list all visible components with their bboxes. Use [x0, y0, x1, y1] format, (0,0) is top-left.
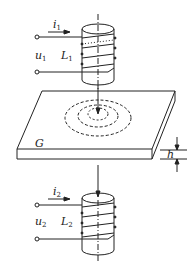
label-u2: u2: [35, 215, 47, 229]
top-terminal-upper: [35, 35, 39, 39]
bottom-coil: [35, 165, 116, 262]
label-L2: L2: [60, 215, 73, 229]
label-L1: L1: [60, 49, 73, 63]
label-h: h: [167, 148, 174, 161]
top-coil: [35, 14, 116, 90]
eddy-current-diagram: i1 u1 L1 G h i2 u2 L2: [0, 0, 195, 274]
bottom-terminal-upper: [35, 203, 39, 207]
label-i1: i1: [53, 18, 61, 32]
label-u1: u1: [35, 49, 47, 63]
top-terminal-lower: [35, 70, 39, 74]
label-i2: i2: [53, 185, 61, 199]
label-G: G: [35, 137, 44, 150]
bottom-terminal-lower: [35, 237, 39, 241]
